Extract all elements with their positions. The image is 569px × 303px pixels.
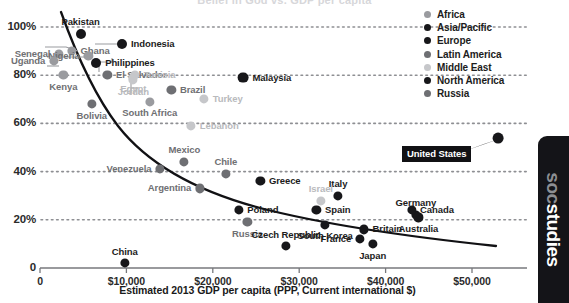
- point-label-philippines: Philippines: [105, 58, 155, 68]
- data-point-britain[interactable]: [359, 225, 368, 234]
- point-label-kenya: Kenya: [49, 82, 77, 92]
- legend-swatch-icon: [424, 24, 431, 31]
- point-label-france: France: [321, 234, 352, 244]
- data-point-philippines[interactable]: [91, 58, 101, 68]
- point-label-turkey: Turkey: [213, 95, 243, 105]
- legend-swatch-icon: [424, 64, 431, 71]
- point-label-lebanon: Lebanon: [200, 121, 239, 131]
- point-label-jordan: Jordan: [118, 87, 149, 97]
- legend-item-middle-east[interactable]: Middle East: [424, 61, 504, 74]
- point-label-venezuela: Venezuela: [106, 164, 151, 174]
- chart-container: Belief in God vs. GDP per capita 100%80%…: [0, 0, 569, 303]
- point-label-argentina: Argentina: [148, 184, 191, 194]
- point-label-canada: Canada: [420, 205, 454, 215]
- legend-item-africa[interactable]: Africa: [424, 8, 504, 21]
- point-label-indonesia: Indonesia: [131, 39, 174, 49]
- data-point-czech-republic[interactable]: [282, 242, 291, 251]
- legend-swatch-icon: [424, 37, 431, 44]
- legend: AfricaAsia/PacificEuropeLatin AmericaMid…: [424, 8, 504, 100]
- point-label-britain: Britain: [373, 225, 402, 235]
- data-point-lebanon[interactable]: [187, 121, 196, 130]
- point-label-uganda: Uganda: [11, 56, 45, 66]
- point-label-chile: Chile: [214, 158, 237, 168]
- point-label-poland: Poland: [247, 205, 278, 215]
- legend-label: Asia/Pacific: [437, 22, 492, 33]
- data-point-indonesia[interactable]: [117, 39, 127, 49]
- legend-label: North America: [437, 75, 504, 86]
- point-label-australia: Australia: [399, 224, 439, 234]
- data-point-china[interactable]: [120, 259, 129, 268]
- data-point-south-africa[interactable]: [145, 97, 154, 106]
- point-label-tunisia: Tunisia: [144, 70, 176, 80]
- point-label-pakistan: Pakistan: [61, 17, 99, 27]
- point-label-greece: Greece: [269, 176, 301, 186]
- data-point-uganda[interactable]: [49, 56, 58, 65]
- data-point-bolivia[interactable]: [87, 100, 96, 109]
- legend-swatch-icon: [424, 51, 431, 58]
- data-point-mexico[interactable]: [180, 157, 189, 166]
- legend-item-north-america[interactable]: North America: [424, 74, 504, 87]
- legend-swatch-icon: [424, 77, 431, 84]
- legend-item-europe[interactable]: Europe: [424, 34, 504, 47]
- data-point-russia[interactable]: [243, 218, 252, 227]
- legend-item-russia[interactable]: Russia: [424, 87, 504, 100]
- socstudies-brand-tab[interactable]: socstudies: [538, 136, 569, 303]
- data-point-el-salvador[interactable]: [103, 71, 112, 80]
- point-label-mexico: Mexico: [168, 146, 200, 156]
- legend-label: Russia: [437, 88, 469, 99]
- legend-label: Latin America: [437, 49, 501, 60]
- legend-swatch-icon: [424, 90, 431, 97]
- data-point-pakistan[interactable]: [76, 29, 86, 39]
- data-point-australia[interactable]: [414, 213, 423, 222]
- point-label-malaysia: Malaysia: [252, 73, 291, 83]
- data-point-south-korea[interactable]: [321, 220, 330, 229]
- point-label-japan: Japan: [359, 251, 386, 261]
- brand-text-soc: soc: [543, 172, 565, 203]
- legend-swatch-icon: [424, 11, 431, 18]
- data-point-france[interactable]: [355, 234, 364, 243]
- legend-label: Europe: [437, 35, 471, 46]
- point-label-spain: Spain: [325, 205, 350, 215]
- legend-item-asia-pacific[interactable]: Asia/Pacific: [424, 21, 504, 34]
- data-point-united-states[interactable]: [493, 132, 504, 143]
- point-label-bolivia: Bolivia: [77, 111, 107, 121]
- brand-text-studies: studies: [543, 204, 565, 267]
- data-point-malaysia[interactable]: [238, 72, 249, 83]
- data-point-japan[interactable]: [368, 239, 377, 248]
- point-label-czech-republic: Czech Republic: [252, 230, 321, 240]
- data-point-italy[interactable]: [333, 191, 342, 200]
- data-point-venezuela[interactable]: [156, 165, 165, 174]
- data-point-poland[interactable]: [234, 206, 243, 215]
- data-point-argentina[interactable]: [195, 184, 204, 193]
- point-label-china: China: [112, 247, 138, 257]
- data-point-kenya[interactable]: [59, 71, 68, 80]
- data-point-chile[interactable]: [221, 169, 230, 178]
- point-label-brazil: Brazil: [180, 85, 205, 95]
- data-point-turkey[interactable]: [200, 95, 209, 104]
- point-label-south-africa: South Africa: [122, 109, 177, 119]
- data-point-greece[interactable]: [256, 177, 265, 186]
- point-label-israel: Israel: [309, 184, 333, 194]
- data-point-brazil[interactable]: [167, 85, 176, 94]
- legend-item-latin-america[interactable]: Latin America: [424, 48, 504, 61]
- data-point-israel[interactable]: [316, 196, 325, 205]
- data-point-spain[interactable]: [312, 206, 321, 215]
- legend-label: Africa: [437, 9, 465, 20]
- united-states-callout: United States: [402, 146, 471, 162]
- legend-label: Middle East: [437, 62, 491, 73]
